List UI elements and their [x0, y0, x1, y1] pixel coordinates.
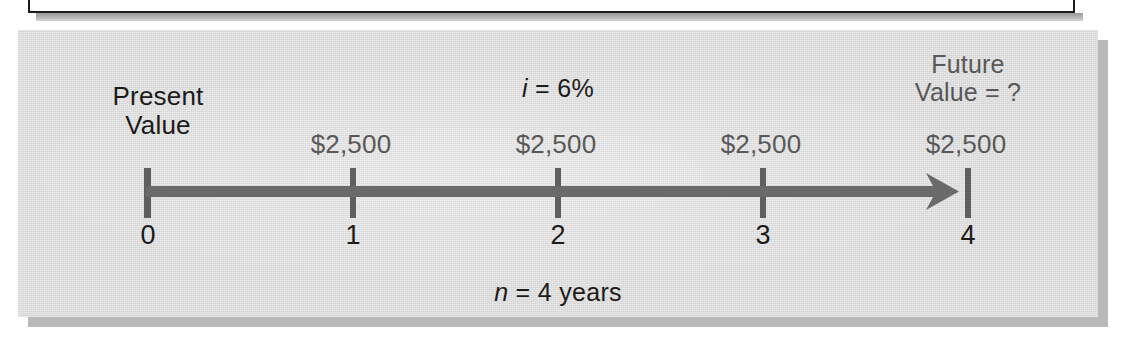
- present-value-label: Present Value: [58, 82, 258, 140]
- cash-flow-label-1: $2,500: [261, 130, 441, 159]
- tick-number-2: 2: [498, 220, 618, 250]
- tick-number-4: 4: [908, 220, 1028, 250]
- future-value-label-line2: Value = ?: [868, 78, 1068, 106]
- period-value: = 4 years: [508, 278, 621, 306]
- future-value-label: Future Value = ?: [868, 50, 1068, 106]
- cash-flow-label-3: $2,500: [671, 130, 851, 159]
- interest-rate-value: = 6%: [528, 74, 594, 102]
- cash-flow-label-2: $2,500: [466, 130, 646, 159]
- tick-number-1: 1: [293, 220, 413, 250]
- cash-flow-label-4: $2,500: [876, 130, 1056, 159]
- timeline-arrow-shaft: [146, 186, 936, 197]
- present-value-label-line2: Value: [58, 111, 258, 140]
- tick-number-0: 0: [88, 220, 208, 250]
- future-value-label-line1: Future: [868, 50, 1068, 78]
- tick-mark-4: [965, 168, 971, 218]
- period-symbol: n: [494, 278, 508, 306]
- period-count-label: n = 4 years: [18, 278, 1098, 306]
- upper-bordered-box: [28, 0, 1075, 13]
- figure-panel: i = 6% Present Value Future Value = ? $2…: [18, 30, 1098, 317]
- upper-box-shadow: [36, 13, 1083, 21]
- tick-number-3: 3: [703, 220, 823, 250]
- present-value-label-line1: Present: [58, 82, 258, 111]
